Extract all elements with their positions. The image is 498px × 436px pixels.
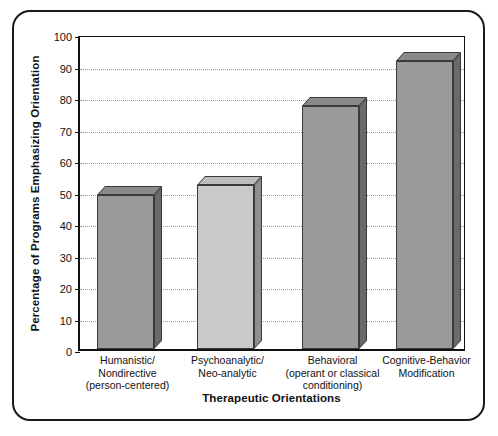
y-axis-tick-label: 10 — [60, 315, 72, 326]
tick-mark — [75, 69, 80, 70]
x-axis-title: Therapeutic Orientations — [78, 392, 465, 404]
bar-top-face — [396, 52, 461, 61]
tick-mark — [75, 289, 80, 290]
category-label-line: Psychoanalytic/ — [168, 354, 288, 367]
y-axis-tick-label: 100 — [54, 32, 72, 43]
plot-area: 0102030405060708090100 — [78, 36, 465, 351]
bar-front-face — [197, 185, 254, 349]
bar-front-face — [97, 195, 154, 349]
category-label-line: (person-centered) — [68, 379, 188, 392]
y-axis-tick-label: 30 — [60, 252, 72, 263]
bar-top-face — [302, 97, 367, 106]
bar-side-face — [359, 98, 367, 349]
bar-front-face — [302, 106, 359, 349]
y-axis-tick-label: 40 — [60, 221, 72, 232]
category-label-line: conditioning) — [273, 379, 393, 392]
y-axis-tick-label: 60 — [60, 158, 72, 169]
category-label-line: Neo-analytic — [168, 367, 288, 380]
bar-side-face — [154, 186, 162, 349]
y-axis-tick-label: 70 — [60, 126, 72, 137]
bar-top-face — [197, 176, 262, 185]
bar — [396, 61, 453, 349]
bar-top-face — [97, 186, 162, 195]
y-axis-tick-label: 80 — [60, 95, 72, 106]
bar-side-face — [453, 52, 461, 349]
y-axis-tick-label: 20 — [60, 284, 72, 295]
tick-mark — [75, 100, 80, 101]
category-label-line: Cognitive-Behavior — [367, 354, 487, 367]
x-axis-category-label: Cognitive-BehaviorModification — [367, 354, 487, 379]
tick-mark — [75, 226, 80, 227]
y-axis-title: Percentage of Programs Emphasizing Orien… — [26, 36, 44, 351]
bar — [197, 185, 254, 349]
bar — [302, 106, 359, 349]
tick-mark — [75, 163, 80, 164]
category-label-line: Modification — [367, 367, 487, 380]
tick-mark — [75, 37, 80, 38]
bar-side-face — [254, 177, 262, 349]
tick-mark — [75, 195, 80, 196]
y-axis-tick-label: 90 — [60, 63, 72, 74]
tick-mark — [75, 352, 80, 353]
chart-figure: Percentage of Programs Emphasizing Orien… — [0, 0, 498, 436]
tick-mark — [75, 132, 80, 133]
x-axis-category-label: Psychoanalytic/Neo-analytic — [168, 354, 288, 379]
bar-front-face — [396, 61, 453, 349]
tick-mark — [75, 258, 80, 259]
y-axis-tick-label: 50 — [60, 189, 72, 200]
tick-mark — [75, 321, 80, 322]
bar — [97, 195, 154, 349]
